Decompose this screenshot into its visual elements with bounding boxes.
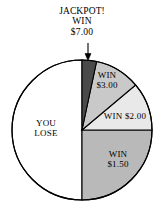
jackpot-callout-label: JACKPOT! WIN $7.00 xyxy=(46,6,118,37)
pie-slice-win-150[interactable] xyxy=(82,130,152,200)
pie-slice-you-lose[interactable] xyxy=(12,60,82,200)
jackpot-callout-line-1: JACKPOT! xyxy=(46,6,118,16)
jackpot-callout-line-3: $7.00 xyxy=(46,27,118,37)
jackpot-callout-arrow xyxy=(85,43,91,61)
jackpot-callout-line-2: WIN xyxy=(46,16,118,26)
pie-chart-figure: JACKPOT! WIN $7.00 YOU LOSE WIN $3.00 WI… xyxy=(0,0,164,217)
